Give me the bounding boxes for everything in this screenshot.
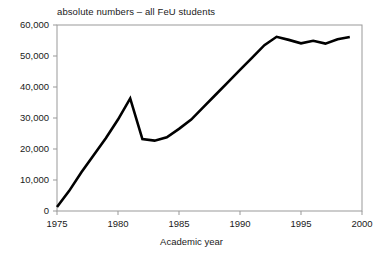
x-tick-label: 1975	[37, 218, 77, 229]
x-tick-label: 1990	[220, 218, 260, 229]
y-tick-label: 50,000	[1, 50, 49, 61]
x-tick-label: 1980	[98, 218, 138, 229]
data-series-line	[57, 37, 350, 207]
y-tick-label: 20,000	[1, 143, 49, 154]
y-tick-label: 40,000	[1, 81, 49, 92]
y-tick-label: 10,000	[1, 174, 49, 185]
y-tick-label: 30,000	[1, 112, 49, 123]
y-axis-ticks	[53, 25, 57, 211]
x-axis-ticks	[57, 211, 362, 215]
x-tick-label: 1995	[281, 218, 321, 229]
y-tick-label: 0	[1, 205, 49, 216]
x-tick-label: 1985	[159, 218, 199, 229]
chart-figure: absolute numbers – all FeU students 010,…	[0, 0, 383, 263]
y-tick-label: 60,000	[1, 19, 49, 30]
x-axis-title: Academic year	[0, 236, 383, 247]
plot-frame	[57, 25, 362, 211]
x-tick-label: 2000	[342, 218, 382, 229]
